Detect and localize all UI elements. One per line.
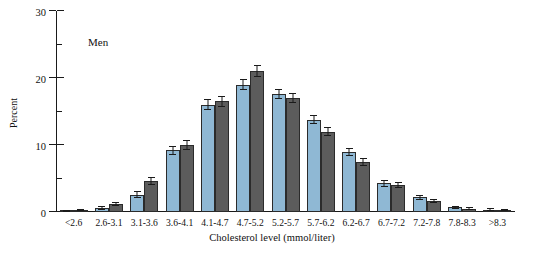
x-tick-label: 4.7-5.2 — [237, 217, 264, 228]
bar-slot — [250, 11, 264, 212]
error-bar — [490, 208, 491, 211]
error-bar — [384, 180, 385, 187]
bar-slot — [342, 11, 356, 212]
error-bar — [186, 140, 187, 149]
bar-group: 5.2-5.7 — [268, 11, 303, 212]
bar-slot — [272, 11, 286, 212]
y-axis-label: Percent — [8, 98, 19, 128]
y-tick-major — [49, 144, 56, 145]
x-tick-label: 3.1-3.6 — [131, 217, 158, 228]
bar-slot — [448, 11, 462, 212]
error-bar — [115, 202, 116, 207]
bar-slot — [74, 11, 88, 212]
bar-series-dark-gray[interactable] — [391, 185, 405, 212]
x-tick-label: 3.6-4.1 — [166, 217, 193, 228]
bar-slot — [413, 11, 427, 212]
error-bar — [221, 96, 222, 107]
bar-group: 6.7-7.2 — [374, 11, 409, 212]
error-bar — [137, 191, 138, 198]
x-tick-label: 6.2-6.7 — [343, 217, 370, 228]
bar-slot — [377, 11, 391, 212]
x-tick-label: 5.2-5.7 — [272, 217, 299, 228]
bar-series-light-blue[interactable] — [201, 105, 215, 212]
plot-area: 0102030 <2.62.6-3.13.1-3.63.6-4.14.1-4.7… — [56, 11, 530, 212]
bar-series-dark-gray[interactable] — [215, 101, 229, 212]
bar-slot — [286, 11, 300, 212]
bar-slot — [462, 11, 476, 212]
bar-group: >8.3 — [480, 11, 515, 212]
error-bar — [433, 199, 434, 203]
x-axis-label: Cholesterol level (mmol/liter) — [0, 232, 544, 243]
bar-series-dark-gray[interactable] — [356, 162, 370, 212]
y-tick-label: 10 — [36, 140, 47, 151]
bar-slot — [427, 11, 441, 212]
error-bar — [419, 195, 420, 200]
y-tick-major — [49, 10, 56, 11]
bar-series-light-blue[interactable] — [166, 150, 180, 212]
error-bar — [207, 99, 208, 110]
error-bar — [292, 93, 293, 104]
x-tick-label: <2.6 — [65, 217, 82, 228]
bar-slot — [166, 11, 180, 212]
bar-series-light-blue[interactable] — [272, 94, 286, 212]
bar-slot — [130, 11, 144, 212]
error-bar — [243, 79, 244, 90]
bar-group: <2.6 — [56, 11, 91, 212]
y-tick-label: 20 — [36, 73, 47, 84]
bar-group: 3.1-3.6 — [127, 11, 162, 212]
error-bar — [80, 209, 81, 211]
bar-groups: <2.62.6-3.13.1-3.63.6-4.14.1-4.74.7-5.25… — [56, 11, 515, 212]
error-bar — [151, 177, 152, 185]
bar-group: 4.7-5.2 — [233, 11, 268, 212]
error-bar — [455, 206, 456, 209]
error-bar — [363, 158, 364, 166]
bar-slot — [321, 11, 335, 212]
bar-slot — [236, 11, 250, 212]
bar-group: 5.7-6.2 — [303, 11, 338, 212]
x-tick-label: 2.6-3.1 — [95, 217, 122, 228]
bar-slot — [95, 11, 109, 212]
bar-slot — [391, 11, 405, 212]
bar-series-dark-gray[interactable] — [144, 181, 158, 212]
error-bar — [66, 210, 67, 212]
bar-group: 2.6-3.1 — [91, 11, 126, 212]
y-tick-major — [49, 77, 56, 78]
error-bar — [257, 65, 258, 77]
bar-slot — [60, 11, 74, 212]
bar-slot — [483, 11, 497, 212]
bar-slot — [201, 11, 215, 212]
bar-slot — [497, 11, 511, 212]
x-tick-label: 7.2-7.8 — [413, 217, 440, 228]
error-bar — [327, 127, 328, 136]
cholesterol-distribution-chart: Percent Men 0102030 <2.62.6-3.13.1-3.63.… — [0, 0, 544, 254]
bar-slot — [109, 11, 123, 212]
bar-series-light-blue[interactable] — [342, 152, 356, 212]
bar-series-dark-gray[interactable] — [321, 132, 335, 212]
y-tick-major — [49, 211, 56, 212]
bar-series-light-blue[interactable] — [307, 120, 321, 212]
bar-series-dark-gray[interactable] — [180, 145, 194, 212]
error-bar — [172, 146, 173, 155]
bar-slot — [356, 11, 370, 212]
error-bar — [349, 148, 350, 156]
x-tick-label: 4.1-4.7 — [201, 217, 228, 228]
bar-series-light-blue[interactable] — [236, 85, 250, 212]
y-tick-label: 30 — [36, 6, 47, 17]
bar-series-light-blue[interactable] — [377, 183, 391, 212]
error-bar — [278, 89, 279, 98]
error-bar — [398, 182, 399, 188]
bar-slot — [307, 11, 321, 212]
bar-slot — [180, 11, 194, 212]
error-bar — [313, 115, 314, 124]
bar-group: 4.1-4.7 — [197, 11, 232, 212]
error-bar — [101, 206, 102, 210]
x-tick-label: 6.7-7.2 — [378, 217, 405, 228]
bar-series-dark-gray[interactable] — [250, 71, 264, 212]
x-tick-label: 5.7-6.2 — [307, 217, 334, 228]
error-bar — [469, 207, 470, 210]
bar-slot — [215, 11, 229, 212]
x-tick-label: 7.8-8.3 — [449, 217, 476, 228]
bar-slot — [144, 11, 158, 212]
bar-series-dark-gray[interactable] — [286, 98, 300, 212]
x-tick-label: >8.3 — [489, 217, 506, 228]
